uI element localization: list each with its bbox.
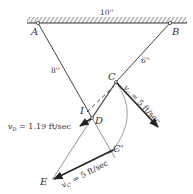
dashed-I-C [87, 86, 114, 112]
vD-arrow [80, 118, 92, 126]
dim-AB: 10'' [100, 8, 114, 17]
label-D: D [94, 115, 103, 126]
linkage-velocity-diagram: 10'' A B 8'' 6'' C I D C' E vD = 1.19 ft… [0, 0, 193, 194]
labels: 10'' A B 8'' 6'' C I D C' E vD = 1.19 ft… [8, 8, 179, 191]
vD-label: vD = 1.19 ft/sec [8, 122, 71, 132]
label-B: B [171, 26, 179, 37]
fixed-ground [27, 17, 187, 23]
link-AD [38, 23, 92, 118]
link-BC [116, 23, 170, 82]
pin-A [36, 21, 39, 24]
pin-B [168, 21, 171, 24]
label-C: C [108, 71, 116, 82]
pin-D [91, 117, 94, 120]
label-C-prime: C' [113, 143, 123, 154]
label-I: I [79, 105, 85, 116]
link-lines [38, 23, 170, 180]
label-E: E [39, 176, 48, 187]
label-A: A [30, 26, 38, 37]
dim-BC: 6'' [141, 56, 150, 65]
dim-AD: 8'' [51, 66, 60, 75]
